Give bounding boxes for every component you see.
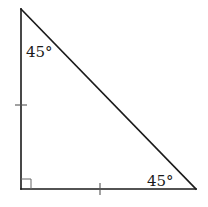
triangle-diagram: 45° 45° [0, 0, 208, 207]
bottom-right-angle-label: 45° [147, 172, 174, 190]
right-angle-marker [21, 179, 31, 189]
top-angle-label: 45° [26, 43, 53, 61]
hypotenuse [21, 9, 196, 189]
